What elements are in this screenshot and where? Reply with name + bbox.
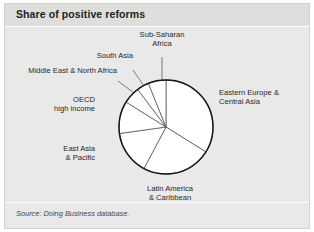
source-note: Source: Doing Business database. [16, 209, 129, 218]
pie-label-south-asia: South Asia [63, 51, 133, 60]
pie-label-middle-east-north-africa: Middle East & North Africa [13, 66, 117, 75]
pie-label-east-asia-pacific: East Asia & Pacific [27, 144, 95, 163]
page-title: Share of positive reforms [16, 8, 145, 20]
pie-chart-plot-area [5, 26, 310, 202]
pie-label-latin-america-caribbean: Latin America & Caribbean [123, 184, 217, 203]
pie-chart-svg [5, 26, 310, 202]
pie-label-sub-saharan-africa: Sub-Saharan Africa [123, 30, 201, 49]
pie-label-eastern-europe-central-asia: Eastern Europe & Central Asia [219, 88, 310, 107]
pie-label-oecd-high-income: OECD high income [27, 95, 95, 114]
source-divider [5, 202, 309, 203]
figure-panel: Share of positive reforms [4, 3, 310, 229]
